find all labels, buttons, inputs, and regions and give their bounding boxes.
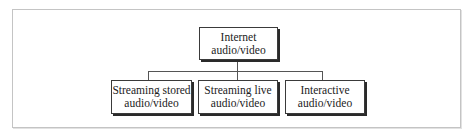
connector-child-3: [322, 71, 323, 80]
node-label-line2: audio/video: [211, 97, 265, 110]
connector-horizontal: [148, 71, 323, 72]
connector-child-1: [148, 71, 149, 80]
node-label-line1: Internet: [221, 31, 257, 44]
node-label-line2: audio/video: [211, 44, 265, 57]
child-node-interactive: Interactive audio/video: [285, 80, 365, 114]
node-label-line1: Streaming live: [204, 84, 271, 97]
root-node-internet-audio-video: Internet audio/video: [199, 27, 278, 60]
node-label-line1: Streaming stored: [112, 84, 190, 97]
connector-child-2: [237, 71, 238, 80]
node-label-line2: audio/video: [298, 97, 352, 110]
child-node-streaming-stored: Streaming stored audio/video: [111, 80, 192, 114]
node-label-line1: Interactive: [300, 84, 349, 97]
child-node-streaming-live: Streaming live audio/video: [198, 80, 278, 114]
node-label-line2: audio/video: [124, 97, 178, 110]
